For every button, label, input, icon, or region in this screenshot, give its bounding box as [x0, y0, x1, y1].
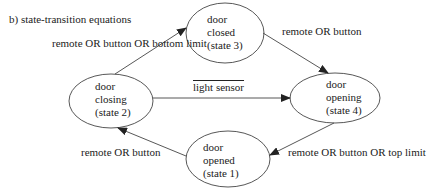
- transition-label-s2-s4: light sensor: [193, 81, 244, 93]
- transition-label-s3-s4: remote OR button: [282, 25, 361, 37]
- transition-label-s1-s2: remote OR button: [81, 146, 160, 158]
- transition-label-s2-s3: remote OR button OR bottom limit: [52, 37, 207, 49]
- arrow-s3-to-s4: [263, 33, 328, 73]
- transition-label-s4-s1: remote OR button OR top limit: [288, 146, 426, 158]
- state-4-label: door opening (state 4): [326, 78, 362, 117]
- arrow-s2-to-s3: [115, 28, 186, 74]
- state-3-label: door closed (state 3): [207, 13, 243, 52]
- state-2-label: door closing (state 2): [95, 80, 131, 119]
- state-1-label: door opened (state 1): [203, 141, 239, 180]
